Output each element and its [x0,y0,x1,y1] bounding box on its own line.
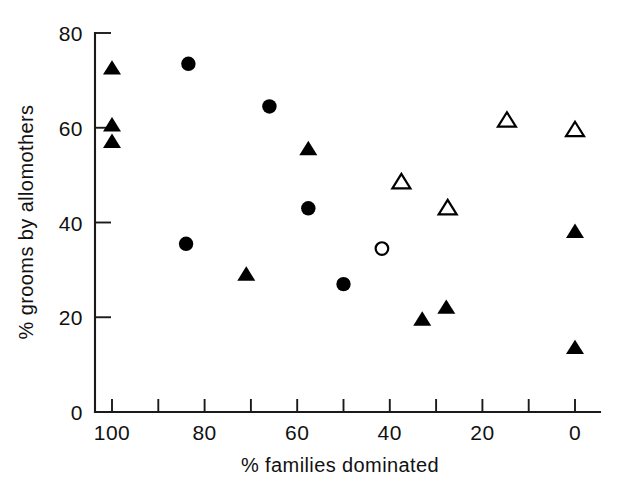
y-tick-label-40: 40 [59,212,83,235]
y-tick-label-0: 0 [71,401,83,424]
x-axis-title: % families dominated [241,454,439,476]
data-point-filled-triangle [566,224,584,238]
data-point-filled-triangle [299,141,317,155]
scatter-plot-figure: 020406080100806040200 % families dominat… [0,0,627,488]
data-point-filled-circle [301,201,315,215]
y-tick-label-80: 80 [59,22,83,45]
data-point-filled-triangle [566,340,584,354]
data-point-filled-triangle [103,117,121,131]
plot-canvas: 020406080100806040200 % families dominat… [0,0,627,488]
x-tick-label-0: 0 [569,421,581,444]
data-point-filled-triangle [413,311,431,325]
data-point-open-triangle [498,112,516,126]
tick-labels-group: 020406080100806040200 [59,22,581,444]
x-tick-label-100: 100 [94,421,131,444]
data-point-filled-circle [336,277,350,291]
y-axis-title: % grooms by allomothers [15,105,37,340]
data-point-filled-circle [262,99,276,113]
ticks-group [95,33,575,412]
data-point-filled-triangle [437,299,455,313]
data-point-filled-triangle [103,134,121,148]
data-points-group [103,57,584,355]
data-point-open-triangle [392,174,410,188]
data-point-filled-circle [179,237,193,251]
data-point-filled-triangle [237,266,255,280]
data-point-open-triangle [566,122,584,136]
x-tick-label-20: 20 [470,421,494,444]
x-tick-label-40: 40 [378,421,402,444]
y-tick-label-20: 20 [59,306,83,329]
x-tick-label-80: 80 [192,421,216,444]
data-point-open-circle [376,242,389,255]
x-tick-label-60: 60 [285,421,309,444]
data-point-filled-triangle [103,60,121,74]
axes-group [95,33,600,412]
y-tick-label-60: 60 [59,117,83,140]
data-point-open-triangle [439,200,457,214]
data-point-filled-circle [181,57,195,71]
